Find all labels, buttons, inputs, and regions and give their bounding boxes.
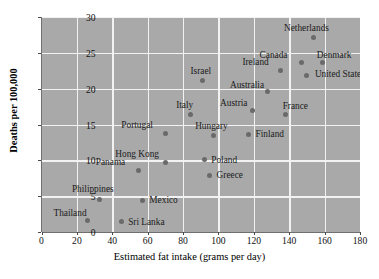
data-point-label: Mexico xyxy=(149,195,177,205)
y-tick-label: 15 xyxy=(76,119,96,130)
data-point-label: France xyxy=(283,101,308,111)
data-point xyxy=(140,198,145,203)
data-point-label: Denmark xyxy=(317,50,352,60)
data-point xyxy=(202,157,207,162)
x-tick-label: 140 xyxy=(282,235,296,246)
x-axis-title: Estimated fat intake (grams per day) xyxy=(0,251,379,262)
data-point xyxy=(265,89,270,94)
data-point xyxy=(188,112,193,117)
x-tick-label: 100 xyxy=(211,235,225,246)
data-point-label: Greece xyxy=(217,170,243,180)
y-tick xyxy=(38,232,41,233)
data-point xyxy=(207,173,212,178)
data-point-label: Hungary xyxy=(195,121,228,131)
y-tick-label: 30 xyxy=(76,12,96,23)
data-point-label: United States xyxy=(315,69,360,79)
y-tick-label: 0 xyxy=(76,227,96,238)
data-point xyxy=(119,219,124,224)
data-point-label: Finland xyxy=(256,129,284,139)
y-tick-label: 5 xyxy=(76,191,96,202)
data-point xyxy=(136,168,141,173)
x-tick-label: 60 xyxy=(143,235,153,246)
data-point xyxy=(299,60,304,65)
data-point xyxy=(163,160,168,165)
data-point xyxy=(163,131,168,136)
data-point-label: Portugal xyxy=(121,120,153,130)
y-tick xyxy=(38,160,41,161)
data-point-label: Sri Lanka xyxy=(128,217,164,227)
y-tick xyxy=(38,17,41,18)
data-point xyxy=(211,133,216,138)
y-tick-label: 20 xyxy=(76,83,96,94)
y-axis-line xyxy=(41,17,42,232)
data-point xyxy=(311,35,316,40)
data-point-label: Poland xyxy=(211,155,237,165)
y-tick xyxy=(38,53,41,54)
scatter-chart: ThailandSri LankaMexicoPhilippinesPanama… xyxy=(0,0,379,279)
data-point xyxy=(246,132,251,137)
y-tick-label: 10 xyxy=(76,155,96,166)
x-tick-label: 120 xyxy=(247,235,261,246)
x-tick-label: 80 xyxy=(178,235,188,246)
data-point xyxy=(200,78,205,83)
x-tick-label: 160 xyxy=(317,235,331,246)
data-point xyxy=(97,197,102,202)
x-tick-label: 40 xyxy=(107,235,117,246)
x-tick-label: 180 xyxy=(353,235,367,246)
data-point xyxy=(283,112,288,117)
data-point-label: Italy xyxy=(176,100,193,110)
data-point-label: Netherlands xyxy=(284,23,329,33)
data-point xyxy=(278,68,283,73)
y-tick-label: 25 xyxy=(76,47,96,58)
y-tick xyxy=(38,89,41,90)
data-point-label: Hong Kong xyxy=(115,149,159,159)
data-point xyxy=(85,218,90,223)
y-tick xyxy=(38,125,41,126)
data-point-label: Thailand xyxy=(54,208,87,218)
y-axis-title: Deaths per 100,000 xyxy=(8,46,19,176)
data-point-label: Austria xyxy=(220,98,247,108)
data-point-label: Israel xyxy=(191,66,212,76)
y-tick xyxy=(38,196,41,197)
data-point xyxy=(304,73,309,78)
data-point-label: Canada xyxy=(260,50,288,60)
data-point-label: Australia xyxy=(230,80,264,90)
x-tick-label: 0 xyxy=(39,235,44,246)
data-point xyxy=(250,108,255,113)
